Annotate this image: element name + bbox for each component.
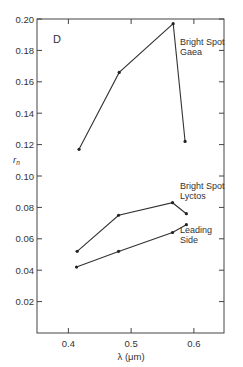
y-tick-label: 0.12 xyxy=(16,139,35,150)
data-point xyxy=(171,201,174,204)
y-tick-label: 0.02 xyxy=(16,296,35,307)
data-point xyxy=(76,250,79,253)
data-point xyxy=(77,148,80,151)
y-tick-label: 0.16 xyxy=(16,76,35,87)
series-line xyxy=(77,203,186,252)
y-tick-label: 0.04 xyxy=(16,265,35,276)
annotations: DBright SpotGaeaBright SpotLyctosLeading… xyxy=(53,33,225,245)
data-point xyxy=(118,71,121,74)
data-point xyxy=(117,250,120,253)
x-tick-label: 0.6 xyxy=(187,338,200,349)
series-annotation: Bright SpotGaea xyxy=(180,37,225,57)
y-axis: 0.020.040.060.080.100.120.140.160.180.20… xyxy=(13,14,224,308)
series-bright-spot-lyctos xyxy=(76,201,188,253)
y-tick-label: 0.08 xyxy=(16,202,35,213)
series-bright-spot-gaea xyxy=(77,22,186,151)
x-tick-label: 0.5 xyxy=(125,338,138,349)
series-annotation: LeadingSide xyxy=(180,225,212,245)
series-line xyxy=(79,24,185,150)
reflectance-chart: 0.020.040.060.080.100.120.140.160.180.20… xyxy=(0,0,243,367)
plot-frame xyxy=(37,19,224,333)
y-tick-label: 0.10 xyxy=(16,171,35,182)
series-annotation: Bright SpotLyctos xyxy=(180,181,225,201)
data-point xyxy=(172,22,175,25)
series-line xyxy=(77,225,187,267)
plot-border xyxy=(37,19,224,333)
y-tick-label: 0.06 xyxy=(16,233,35,244)
y-tick-label: 0.20 xyxy=(16,14,35,25)
data-point xyxy=(171,231,174,234)
data-point xyxy=(185,212,188,215)
series-group xyxy=(75,22,188,269)
y-tick-label: 0.18 xyxy=(16,45,35,56)
y-axis-label: rn xyxy=(13,154,20,166)
data-point xyxy=(183,140,186,143)
series-leading-side xyxy=(75,223,188,269)
data-point xyxy=(117,214,120,217)
y-tick-label: 0.14 xyxy=(16,108,35,119)
x-tick-label: 0.4 xyxy=(62,338,75,349)
x-axis-label: λ (μm) xyxy=(118,351,145,362)
panel-label: D xyxy=(53,33,61,45)
data-point xyxy=(75,265,78,268)
